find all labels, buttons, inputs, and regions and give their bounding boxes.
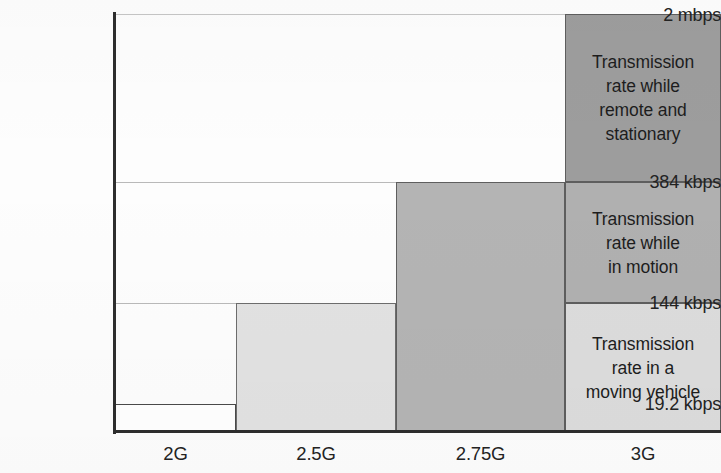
bar-3g-segment-in-motion: Transmission rate while in motion	[565, 182, 721, 303]
bar-2-5g	[236, 303, 396, 433]
bar-3g-segment-remote-stationary: Transmission rate while remote and stati…	[565, 14, 721, 182]
x-tick-label-2-5g: 2.5G	[236, 443, 396, 465]
y-tick-label-384-kbps: 384 kbps	[615, 172, 721, 192]
x-axis-line	[113, 430, 721, 433]
bar-chart-figure: Transmission rate while remote and stati…	[0, 0, 721, 473]
y-axis-line	[113, 12, 116, 434]
bar-2g	[115, 404, 236, 433]
segment-label-remote-stationary: Transmission rate while remote and stati…	[586, 50, 700, 146]
x-tick-label-2g: 2G	[115, 443, 236, 465]
x-tick-label-2-75g: 2.75G	[396, 443, 565, 465]
bar-2-75g	[396, 182, 565, 433]
x-tick-label-3g: 3G	[565, 443, 721, 465]
y-tick-label-19-2-kbps: 19.2 kbps	[615, 394, 721, 414]
y-tick-label-144-kbps: 144 kbps	[615, 293, 721, 313]
y-tick-label-2-mbps: 2 mbps	[615, 5, 721, 25]
segment-label-in-motion: Transmission rate while in motion	[586, 207, 700, 279]
